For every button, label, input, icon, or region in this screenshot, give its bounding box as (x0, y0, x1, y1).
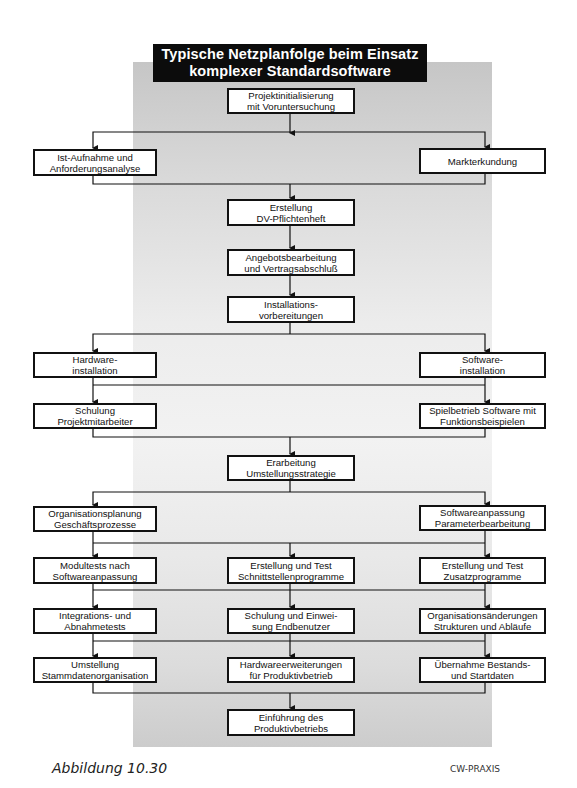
node-label: Installations- (264, 299, 318, 310)
node-label: Software- (462, 354, 503, 365)
node-label: Markterkundung (448, 156, 517, 167)
node-label: Erstellung und Test (250, 560, 331, 571)
node-label: Hardwareerweiterungen (240, 659, 342, 670)
node-stammdatenorganisation: Umstellung Stammdatenorganisation (33, 657, 157, 683)
node-label: Softwareanpassung (53, 571, 138, 582)
node-label: DV-Pflichtenheft (257, 213, 326, 224)
node-einfuehrung-produktivbetrieb: Einführung des Produktivbetriebs (227, 709, 355, 736)
node-software-installation: Software- installation (419, 352, 546, 378)
node-label: Erarbeitung (266, 457, 316, 468)
node-label: Funktionsbeispielen (440, 416, 525, 427)
node-label: Projektinitialisierung (248, 90, 333, 101)
node-zusatzprogramme: Erstellung und Test Zusatzprogramme (419, 557, 546, 584)
node-label: Parameterbearbeitung (435, 518, 530, 529)
node-label: Schulung und Einwei- (245, 610, 338, 621)
node-pflichtenheft: Erstellung DV-Pflichtenheft (227, 199, 355, 226)
node-softwareanpassung: Softwareanpassung Parameterbearbeitung (419, 505, 546, 531)
node-label: Strukturen und Abläufe (434, 621, 532, 632)
node-angebotsbearbeitung: Angebotsbearbeitung und Vertragsabschluß (227, 249, 355, 276)
node-label: Anforderungsanalyse (50, 163, 141, 174)
node-label: Angebotsbearbeitung (245, 252, 336, 263)
node-schulung-projektmitarbeiter: Schulung Projektmitarbeiter (33, 403, 157, 429)
node-label: Spielbetrieb Software mit (429, 405, 536, 416)
publisher-brand: CW-PRAXIS (450, 764, 500, 774)
node-label: installation (460, 365, 505, 376)
node-label: sung Endbenutzer (252, 621, 330, 632)
node-label: Organisationsplanung (48, 508, 141, 519)
node-label: Stammdatenorganisation (42, 670, 149, 681)
node-hardware-installation: Hardware- installation (33, 352, 157, 378)
node-label: Übernahme Bestands- (435, 659, 531, 670)
node-label: Ist-Aufnahme und (57, 152, 133, 163)
node-label: Umstellungsstrategie (246, 468, 336, 479)
node-label: Modultests nach (60, 560, 130, 571)
node-label: Hardware- (73, 354, 118, 365)
node-label: vorbereitungen (259, 310, 323, 321)
node-label: Projektmitarbeiter (57, 416, 132, 427)
node-ist-aufnahme: Ist-Aufnahme und Anforderungsanalyse (33, 149, 157, 176)
node-projektinitialisierung: Projektinitialisierung mit Voruntersuchu… (227, 88, 355, 114)
node-organisationsaenderungen: Organisationsänderungen Strukturen und A… (419, 608, 546, 634)
node-hardwareerweiterungen: Hardwareerweiterungen für Produktivbetri… (227, 657, 355, 683)
node-label: Abnahmetests (64, 621, 125, 632)
node-schulung-endbenutzer: Schulung und Einwei- sung Endbenutzer (227, 608, 355, 634)
node-label: Schnittstellenprogramme (238, 571, 344, 582)
figure-caption: Abbildung 10.30 (52, 760, 167, 776)
node-umstellungsstrategie: Erarbeitung Umstellungsstrategie (227, 455, 355, 481)
node-label: Zusatzprogramme (444, 571, 522, 582)
node-label: Schulung (75, 405, 115, 416)
node-label: Integrations- und (59, 610, 131, 621)
node-label: installation (72, 365, 117, 376)
node-label: mit Voruntersuchung (247, 101, 335, 112)
node-label: für Produktivbetrieb (249, 670, 332, 681)
node-label: und Startdaten (451, 670, 514, 681)
node-uebernahme-bestandsdaten: Übernahme Bestands- und Startdaten (419, 657, 546, 683)
node-installationsvorbereitungen: Installations- vorbereitungen (227, 296, 355, 323)
node-organisationsplanung: Organisationsplanung Geschäftsprozesse (33, 506, 157, 532)
node-modultests: Modultests nach Softwareanpassung (33, 557, 157, 584)
node-label: Geschäftsprozesse (54, 519, 136, 530)
node-label: Umstellung (71, 659, 119, 670)
node-schnittstellenprogramme: Erstellung und Test Schnittstellenprogra… (227, 557, 355, 584)
node-integrationstests: Integrations- und Abnahmetests (33, 608, 157, 634)
node-label: Erstellung und Test (442, 560, 523, 571)
node-label: Softwareanpassung (440, 507, 525, 518)
node-label: Produktivbetriebs (254, 723, 328, 734)
node-label: Einführung des (259, 712, 324, 723)
node-label: Erstellung (270, 202, 313, 213)
node-spielbetrieb: Spielbetrieb Software mit Funktionsbeisp… (419, 403, 546, 429)
node-label: Organisationsänderungen (427, 610, 537, 621)
node-label: und Vertragsabschluß (244, 263, 337, 274)
node-markterkundung: Markterkundung (419, 148, 546, 174)
